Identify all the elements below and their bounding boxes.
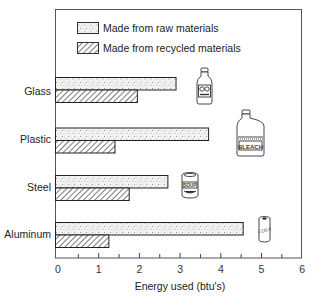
x-tick-label: 2: [136, 263, 142, 275]
bar-steel-recycled: [56, 188, 130, 201]
soup-label: SOUP: [184, 183, 197, 188]
x-tick-label: 3: [177, 263, 183, 275]
bar-plastic-raw: [56, 128, 209, 141]
x-tick-label: 0: [55, 263, 61, 275]
bar-aluminum-recycled: [56, 235, 109, 248]
x-axis: 0123456: [55, 253, 305, 275]
legend-swatch-raw: [78, 23, 99, 34]
category-label-aluminum: Aluminum: [4, 228, 51, 240]
x-tick-label: 1: [96, 263, 102, 275]
soda-can-icon: COLA: [258, 217, 273, 243]
category-label-plastic: Plastic: [20, 133, 51, 145]
legend-label-raw: Made from raw materials: [103, 22, 219, 34]
bars-group: [56, 78, 244, 248]
x-tick-label: 5: [259, 263, 265, 275]
juice-bottle-icon: [197, 68, 212, 104]
legend: Made from raw materials Made from recycl…: [78, 22, 241, 54]
bar-chart: Made from raw materials Made from recycl…: [0, 0, 312, 301]
x-tick-label: 6: [299, 263, 305, 275]
bar-glass-raw: [56, 78, 177, 91]
bar-glass-recycled: [56, 90, 138, 103]
legend-swatch-recycled: [78, 43, 99, 54]
bar-steel-raw: [56, 176, 168, 189]
soup-can-icon: SOUP: [182, 173, 198, 199]
bar-aluminum-raw: [56, 223, 244, 236]
bleach-label: BLEACH: [238, 144, 263, 150]
category-label-glass: Glass: [24, 85, 51, 97]
category-label-steel: Steel: [27, 181, 51, 193]
x-tick-label: 4: [218, 263, 224, 275]
legend-label-recycled: Made from recycled materials: [103, 42, 241, 54]
bar-plastic-recycled: [56, 141, 115, 154]
x-axis-label: Energy used (btu's): [135, 280, 226, 292]
bleach-jug-icon: BLEACH: [237, 110, 264, 156]
